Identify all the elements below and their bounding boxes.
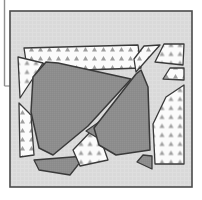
polygon-diagram-canvas	[0, 0, 202, 200]
figure-root: Abstract polygon partition diagram A bor…	[0, 0, 202, 200]
